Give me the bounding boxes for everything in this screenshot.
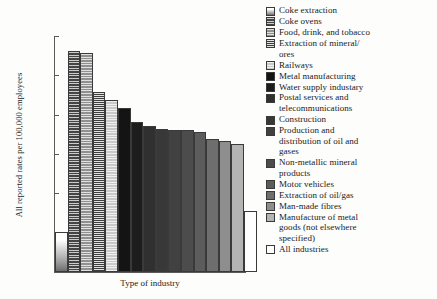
legend-label: All industries — [279, 244, 328, 255]
legend-item: Postal services andtelecommunications — [266, 92, 437, 113]
legend-swatch-icon — [266, 213, 275, 222]
legend-swatch-icon — [266, 17, 275, 26]
legend-label: Food, drink, and tobacco — [279, 27, 370, 38]
legend-label: Coke extraction — [279, 5, 337, 16]
legend-label: Coke ovens — [279, 16, 322, 27]
x-axis-line — [54, 272, 246, 273]
legend-label: Motor vehicles — [279, 179, 334, 190]
legend-swatch-icon — [266, 159, 275, 168]
bar — [168, 130, 181, 272]
bar — [131, 122, 144, 272]
legend-item: Man-made fibres — [266, 201, 437, 212]
legend-label: Postal services andtelecommunications — [279, 92, 352, 113]
legend-swatch-icon — [266, 245, 275, 254]
legend-label: Extraction of oil/gas — [279, 190, 354, 201]
bar-series — [55, 36, 257, 272]
legend-item: Manufacture of metalgoods (not elsewhere… — [266, 212, 437, 244]
legend-label: Manufacture of metalgoods (not elsewhere… — [279, 212, 358, 244]
legend-label: Extraction of mineral/ores — [279, 38, 360, 59]
bar — [219, 141, 232, 272]
legend-label: Man-made fibres — [279, 201, 341, 212]
legend-item: Coke extraction — [266, 5, 437, 16]
legend-item: Coke ovens — [266, 16, 437, 27]
legend-swatch-icon — [266, 180, 275, 189]
bar — [156, 129, 169, 272]
legend-swatch-icon — [266, 28, 275, 37]
legend-item: Production anddistribution of oil andgas… — [266, 125, 437, 157]
legend-label: Production anddistribution of oil andgas… — [279, 125, 358, 157]
bar — [80, 53, 93, 272]
legend-swatch-icon — [266, 116, 275, 125]
legend-item: Food, drink, and tobacco — [266, 27, 437, 38]
legend-label: Construction — [279, 114, 326, 125]
bar — [118, 108, 131, 272]
bar — [55, 232, 68, 272]
legend-label: Water supply industary — [279, 82, 363, 93]
bar — [206, 139, 219, 272]
legend-swatch-icon — [266, 127, 275, 136]
bar — [93, 92, 106, 272]
x-axis-title: Type of industry — [54, 278, 246, 288]
legend-item: Non-metallic mineralproducts — [266, 157, 437, 178]
legend-item: All industries — [266, 244, 437, 255]
bar — [181, 130, 194, 272]
legend-swatch-icon — [266, 39, 275, 48]
plot-area: All reported rates per 100,000 employees… — [0, 0, 262, 299]
legend-item: Motor vehicles — [266, 179, 437, 190]
legend-label: Railways — [279, 60, 313, 71]
legend-item: Construction — [266, 114, 437, 125]
bar — [143, 126, 156, 272]
legend-item: Extraction of mineral/ores — [266, 38, 437, 59]
legend-item: Railways — [266, 60, 437, 71]
y-axis-title: All reported rates per 100,000 employees — [14, 30, 24, 260]
legend-swatch-icon — [266, 94, 275, 103]
bar — [105, 100, 118, 272]
legend-label: Non-metallic mineralproducts — [279, 157, 357, 178]
legend-swatch-icon — [266, 7, 275, 16]
bar — [244, 211, 257, 272]
bar — [68, 51, 81, 272]
legend-swatch-icon — [266, 191, 275, 200]
chart-figure: All reported rates per 100,000 employees… — [0, 0, 437, 299]
legend-item: Water supply industary — [266, 82, 437, 93]
bar — [194, 132, 207, 272]
bar — [231, 144, 244, 272]
legend-item: Extraction of oil/gas — [266, 190, 437, 201]
y-tick-mark — [54, 272, 59, 273]
legend-swatch-icon — [266, 83, 275, 92]
chart-legend: Coke extractionCoke ovensFood, drink, an… — [266, 5, 437, 255]
legend-swatch-icon — [266, 202, 275, 211]
legend-label: Metal manufacturing — [279, 71, 356, 82]
legend-swatch-icon — [266, 72, 275, 81]
legend-item: Metal manufacturing — [266, 71, 437, 82]
legend-swatch-icon — [266, 61, 275, 70]
